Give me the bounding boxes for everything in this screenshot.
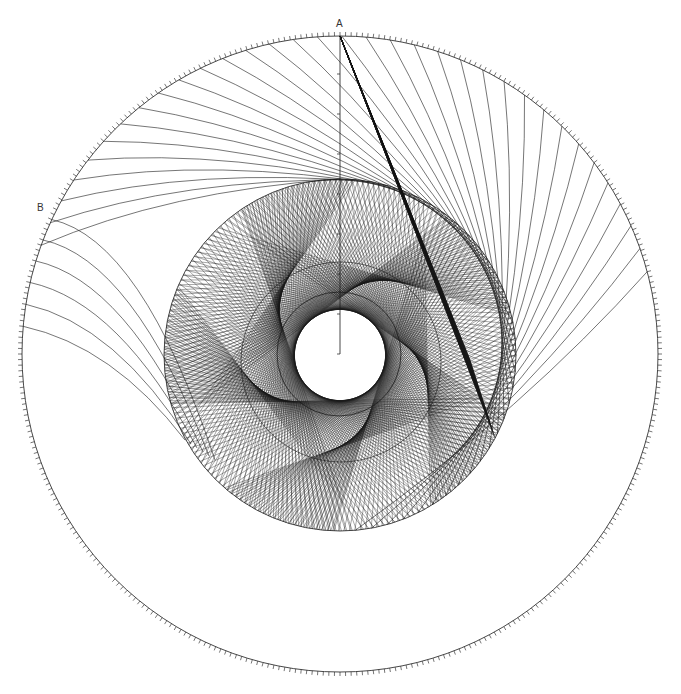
point-label-a: A <box>336 19 343 29</box>
diagram-canvas: A B <box>0 0 681 694</box>
string-art-geometric-diagram <box>0 0 681 694</box>
point-label-b: B <box>37 203 44 213</box>
